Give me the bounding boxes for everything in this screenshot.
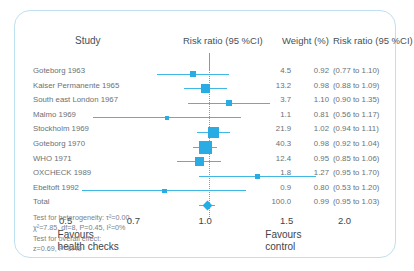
heterogeneity-line-1: Test for heterogeneity: τ²=0.00, (33, 213, 132, 222)
axis-tick-1-0: 1.0 (198, 215, 211, 226)
column-header-weight: Weight (%) (282, 35, 329, 46)
heterogeneity-line-2: χ²=7.85, df=8, P=0.45, I²=0% (33, 223, 125, 232)
null-line-solid-segment (209, 53, 210, 71)
overall-effect-value: z=0.69, P=0.49 (33, 244, 82, 253)
summary-diamond (203, 200, 213, 210)
axis-tick-2-0: 2.0 (338, 215, 351, 226)
study-marker-square (165, 116, 169, 120)
study-marker-square (195, 157, 204, 166)
study-marker-square (199, 141, 212, 154)
study-marker-square (190, 71, 196, 77)
column-header-risk-ratio: Risk ratio (95 %CI) (333, 35, 413, 46)
column-header-plot: Risk ratio (95 %CI) (183, 35, 263, 46)
column-header-study: Study (75, 35, 101, 46)
study-marker-square (226, 100, 232, 106)
overall-effect-label: Test for overall effect: (33, 234, 101, 243)
study-marker-square (162, 189, 166, 193)
favours-control-label: Favourscontrol (265, 229, 301, 252)
study-marker-square (255, 174, 260, 179)
axis-tick-1-5: 1.5 (280, 215, 293, 226)
favours-right-text: control (265, 241, 301, 253)
forest-plot-card: Study Risk ratio (95 %CI) Weight (%) Ris… (14, 10, 396, 258)
favours-right-text: Favours (265, 229, 301, 241)
study-marker-square (201, 84, 210, 93)
study-marker-square (208, 127, 219, 138)
forest-plot-area (35, 51, 377, 223)
